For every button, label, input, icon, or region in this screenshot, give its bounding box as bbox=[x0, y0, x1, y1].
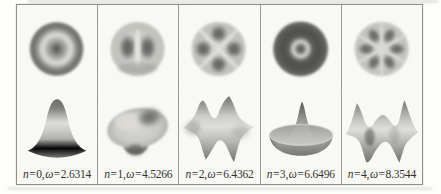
caption-mode-n2: n = 2, ω = 6.4362 bbox=[179, 167, 259, 184]
top-view-mode-n4 bbox=[342, 5, 422, 90]
omega-symbol: ω bbox=[289, 168, 297, 180]
omega-symbol: ω bbox=[45, 168, 53, 180]
omega-value: 6.4362 bbox=[223, 168, 253, 180]
equals-sign: = bbox=[215, 168, 223, 180]
equals-sign: = bbox=[134, 168, 142, 180]
equals-sign: = bbox=[53, 168, 61, 180]
surface-view-n3-image bbox=[261, 90, 341, 167]
panel-mode-n2: n = 2, ω = 6.4362 bbox=[178, 5, 259, 184]
top-view-n3-image bbox=[261, 5, 341, 90]
top-view-mode-n0 bbox=[17, 5, 97, 90]
top-view-n1-image bbox=[98, 5, 178, 90]
caption-mode-n4: n = 4, ω = 8.3544 bbox=[342, 167, 422, 184]
caption-mode-n0: n = 0, ω = 2.6314 bbox=[17, 167, 97, 184]
panel-mode-n3: n = 3, ω = 6.6496 bbox=[260, 5, 341, 184]
scan-artifact-bottom bbox=[8, 187, 432, 190]
top-view-mode-n1 bbox=[98, 5, 178, 90]
equals-sign: = bbox=[191, 168, 199, 180]
surface-view-mode-n3 bbox=[261, 90, 341, 167]
top-view-n2-image bbox=[179, 5, 259, 90]
caption-mode-n3: n = 3, ω = 6.6496 bbox=[261, 167, 341, 184]
top-view-mode-n2 bbox=[179, 5, 259, 90]
surface-view-n1-image bbox=[98, 90, 178, 167]
scan-artifact-top bbox=[28, 0, 438, 3]
panel-mode-n4: n = 4, ω = 8.3544 bbox=[341, 5, 422, 184]
surface-view-mode-n4 bbox=[342, 90, 422, 167]
panel-mode-n0: n = 0, ω = 2.6314 bbox=[17, 5, 97, 184]
equals-sign: = bbox=[272, 168, 280, 180]
equals-sign: = bbox=[378, 168, 386, 180]
caption-mode-n1: n = 1, ω = 4.5266 bbox=[98, 167, 178, 184]
surface-view-mode-n2 bbox=[179, 90, 259, 167]
top-view-n0-image bbox=[17, 5, 97, 90]
surface-view-n2-image bbox=[179, 90, 259, 167]
omega-symbol: ω bbox=[370, 168, 378, 180]
omega-value: 8.3544 bbox=[386, 168, 416, 180]
omega-value: 4.5266 bbox=[142, 168, 172, 180]
surface-view-n0-image bbox=[17, 90, 97, 167]
drum-modes-figure-table: n = 0, ω = 2.6314 bbox=[16, 4, 423, 185]
top-view-n4-image bbox=[342, 5, 422, 90]
omega-value: 6.6496 bbox=[304, 168, 334, 180]
scanned-figure-page: n = 0, ω = 2.6314 bbox=[0, 0, 441, 194]
surface-view-n4-image bbox=[342, 90, 422, 167]
omega-value: 2.6314 bbox=[61, 168, 91, 180]
panel-mode-n1: n = 1, ω = 4.5266 bbox=[97, 5, 178, 184]
surface-view-mode-n0 bbox=[17, 90, 97, 167]
top-view-mode-n3 bbox=[261, 5, 341, 90]
surface-view-mode-n1 bbox=[98, 90, 178, 167]
equals-sign: = bbox=[353, 168, 361, 180]
